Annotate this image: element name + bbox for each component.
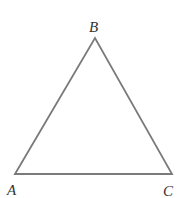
triangle-diagram: B A C bbox=[0, 0, 187, 198]
vertex-label-c: C bbox=[163, 183, 174, 198]
triangle-abc bbox=[15, 38, 172, 174]
vertex-label-a: A bbox=[6, 182, 17, 198]
vertex-label-b: B bbox=[89, 19, 98, 35]
